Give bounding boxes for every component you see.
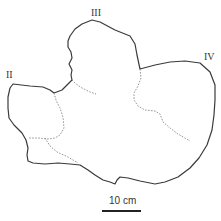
digit-ii-boundary <box>28 93 64 139</box>
digit-boundaries <box>28 69 190 163</box>
digit-iv-boundary <box>134 69 190 141</box>
digit-label-iii: III <box>91 8 101 18</box>
digit-iii-boundary <box>72 80 96 94</box>
digit-ii-lower-boundary <box>45 138 78 163</box>
footprint-diagram <box>0 0 221 221</box>
digit-label-ii: II <box>6 70 13 80</box>
digit-label-iv: IV <box>204 52 215 62</box>
footprint-outline <box>8 20 215 184</box>
scale-bar-label: 10 cm <box>109 196 136 206</box>
